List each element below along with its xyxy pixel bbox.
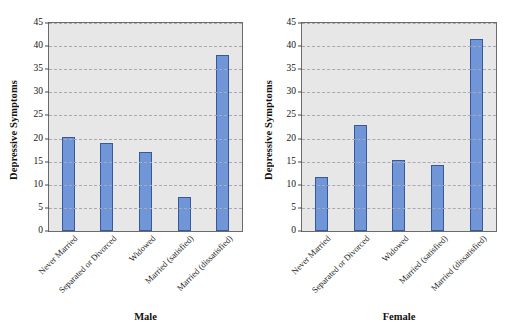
bar-column <box>49 23 88 231</box>
x-axis-tick-label: Widowed <box>127 234 156 263</box>
y-axis-title: Depressive Symptoms <box>261 60 277 200</box>
bar <box>216 55 229 231</box>
bar-group-male <box>49 23 242 231</box>
panel-title-male: Male <box>48 312 243 323</box>
bar-column <box>418 23 457 231</box>
y-axis-tick-mark <box>45 207 49 208</box>
y-axis-tick-mark <box>45 231 49 232</box>
bar-column <box>165 23 204 231</box>
y-axis-tick-mark <box>298 231 302 232</box>
gridline <box>302 23 496 24</box>
gridline <box>49 69 242 70</box>
y-axis-tick-mark <box>298 92 302 93</box>
gridline <box>302 115 496 116</box>
y-axis-tick-mark <box>298 161 302 162</box>
plot-area-male: 051015202530354045 <box>48 22 243 232</box>
bar <box>470 39 483 231</box>
y-axis-tick-mark <box>45 92 49 93</box>
y-axis-tick-mark <box>298 207 302 208</box>
y-axis-tick-mark <box>45 46 49 47</box>
gridline <box>302 185 496 186</box>
bar <box>100 143 113 231</box>
y-axis-tick-mark <box>298 23 302 24</box>
bar-column <box>341 23 380 231</box>
gridline <box>49 185 242 186</box>
bar-column <box>126 23 165 231</box>
y-axis-tick-mark <box>45 69 49 70</box>
gridline <box>49 162 242 163</box>
bar-column <box>203 23 242 231</box>
y-axis-tick-mark <box>45 138 49 139</box>
bar <box>178 197 191 231</box>
gridline <box>49 46 242 47</box>
gridline <box>49 139 242 140</box>
bar-column <box>380 23 419 231</box>
bar <box>354 125 367 231</box>
gridline <box>49 208 242 209</box>
y-axis-tick-mark <box>298 115 302 116</box>
panel-male: Depressive Symptoms 051015202530354045 N… <box>0 0 254 336</box>
bar <box>431 165 444 231</box>
y-axis-tick-mark <box>298 69 302 70</box>
gridline <box>302 46 496 47</box>
panel-female: Depressive Symptoms 051015202530354045 N… <box>255 0 509 336</box>
y-axis-tick-mark <box>298 184 302 185</box>
bar-column <box>302 23 341 231</box>
y-axis-tick-mark <box>45 115 49 116</box>
gridline <box>302 208 496 209</box>
gridline <box>302 69 496 70</box>
y-axis-tick-mark <box>298 46 302 47</box>
y-axis-title: Depressive Symptoms <box>6 60 22 200</box>
bar <box>139 152 152 232</box>
gridline <box>302 139 496 140</box>
gridline <box>302 162 496 163</box>
y-axis-tick-mark <box>45 161 49 162</box>
figure-two-panel-bar-charts: Depressive Symptoms 051015202530354045 N… <box>0 0 509 336</box>
gridline <box>302 92 496 93</box>
bar-column <box>457 23 496 231</box>
y-axis-tick-mark <box>45 23 49 24</box>
y-axis-tick-mark <box>298 138 302 139</box>
x-axis-labels-male: Never MarriedSeparated or DivorcedWidowe… <box>48 234 243 314</box>
gridline <box>49 23 242 24</box>
x-axis-tick-label: Widowed <box>381 234 410 263</box>
x-axis-labels-female: Never MarriedSeparated or DivorcedWidowe… <box>301 234 497 314</box>
bar-column <box>88 23 127 231</box>
panel-title-female: Female <box>301 312 497 323</box>
plot-area-female: 051015202530354045 <box>301 22 497 232</box>
gridline <box>49 115 242 116</box>
y-axis-tick-mark <box>45 184 49 185</box>
gridline <box>49 92 242 93</box>
bar <box>392 160 405 231</box>
bar-group-female <box>302 23 496 231</box>
